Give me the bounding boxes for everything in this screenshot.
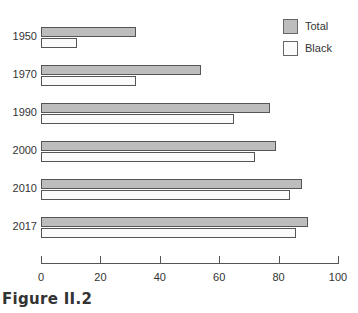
x-tick-label: 100 bbox=[329, 271, 347, 283]
y-axis-label: 2010 bbox=[0, 182, 37, 194]
bar-black-1950 bbox=[41, 38, 77, 48]
legend-label-black: Black bbox=[305, 42, 332, 54]
x-tick bbox=[219, 256, 220, 264]
x-tick bbox=[279, 256, 280, 264]
x-tick bbox=[100, 256, 101, 264]
x-tick-label: 60 bbox=[213, 271, 225, 283]
bar-total-1950 bbox=[41, 27, 136, 37]
legend-swatch-total bbox=[283, 19, 298, 34]
x-axis-line bbox=[41, 263, 338, 264]
x-tick bbox=[338, 256, 339, 264]
bar-total-2017 bbox=[41, 217, 308, 227]
x-tick-label: 80 bbox=[272, 271, 284, 283]
y-axis-label: 2000 bbox=[0, 144, 37, 156]
y-axis-label: 1990 bbox=[0, 106, 37, 118]
x-tick bbox=[160, 256, 161, 264]
bar-total-2010 bbox=[41, 179, 302, 189]
figure-caption: Figure II.2 bbox=[2, 290, 92, 308]
x-tick bbox=[41, 256, 42, 264]
x-tick-label: 0 bbox=[38, 271, 44, 283]
y-axis-label: 1970 bbox=[0, 68, 37, 80]
bar-black-2010 bbox=[41, 190, 290, 200]
x-tick-label: 20 bbox=[94, 271, 106, 283]
bar-black-2017 bbox=[41, 228, 296, 238]
x-tick-label: 40 bbox=[154, 271, 166, 283]
bar-total-1970 bbox=[41, 65, 201, 75]
bar-black-2000 bbox=[41, 152, 255, 162]
bar-total-2000 bbox=[41, 141, 276, 151]
legend-label-total: Total bbox=[305, 20, 328, 32]
y-axis-label: 1950 bbox=[0, 30, 37, 42]
y-axis-label: 2017 bbox=[0, 220, 37, 232]
bar-total-1990 bbox=[41, 103, 270, 113]
legend-swatch-black bbox=[283, 41, 298, 56]
bar-black-1990 bbox=[41, 114, 234, 124]
bar-black-1970 bbox=[41, 76, 136, 86]
